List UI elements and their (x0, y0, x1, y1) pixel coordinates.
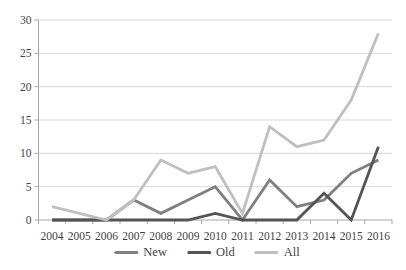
line-chart-plot: 0510152025302004200520062007200820092010… (0, 0, 406, 270)
legend-line-swatch-new (114, 251, 138, 255)
legend-item-new: New (114, 245, 167, 260)
y-axis-tick-label: 25 (20, 47, 32, 59)
x-axis-tick-label: 2012 (258, 230, 281, 242)
series-line-all (52, 33, 378, 220)
legend-item-all: All (255, 245, 300, 260)
x-axis-tick-label: 2010 (204, 230, 227, 242)
legend-item-old: Old (187, 245, 235, 260)
x-axis-tick-label: 2004 (41, 230, 64, 242)
y-axis-tick-label: 0 (26, 214, 32, 226)
line-chart: 0510152025302004200520062007200820092010… (0, 0, 406, 270)
y-axis-tick-label: 30 (20, 14, 32, 26)
legend-label: All (284, 245, 300, 260)
x-axis-tick-label: 2005 (68, 230, 91, 242)
legend-label: Old (216, 245, 235, 260)
x-axis-tick-label: 2013 (285, 230, 308, 242)
x-axis-tick-label: 2006 (95, 230, 118, 242)
legend-label: New (143, 245, 167, 260)
x-axis-tick-label: 2015 (340, 230, 363, 242)
x-axis-tick-label: 2009 (177, 230, 200, 242)
y-axis-tick-label: 10 (20, 147, 32, 159)
series-line-old (52, 147, 378, 220)
x-axis-tick-label: 2008 (149, 230, 172, 242)
x-axis-tick-label: 2016 (367, 230, 390, 242)
legend-line-swatch-old (187, 251, 211, 255)
x-axis-tick-label: 2014 (313, 230, 336, 242)
x-axis-tick-label: 2011 (231, 230, 254, 242)
legend-line-swatch-all (255, 251, 279, 255)
y-axis-tick-label: 5 (26, 181, 32, 193)
y-axis-tick-label: 15 (20, 114, 32, 126)
y-axis-tick-label: 20 (20, 81, 32, 93)
x-axis-tick-label: 2007 (122, 230, 145, 242)
chart-legend: NewOldAll (114, 245, 299, 260)
